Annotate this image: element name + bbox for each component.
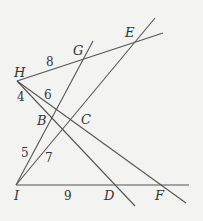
point-label-h: H (13, 65, 26, 80)
segment-label-id: 9 (64, 189, 72, 203)
segment-label-hi: 4 (17, 90, 25, 104)
line-h-d (17, 81, 135, 206)
segment-label-hb: 6 (44, 88, 52, 102)
geometry-diagram: H G E B C I D F 8 6 4 5 7 9 (0, 0, 203, 221)
point-label-f: F (154, 188, 165, 203)
segment-label-hg: 8 (46, 55, 54, 69)
segment-label-ib: 5 (21, 146, 29, 160)
point-label-e: E (124, 25, 135, 40)
segment-label-ic: 7 (45, 151, 53, 165)
point-label-i: I (13, 188, 20, 203)
point-label-c: C (81, 112, 91, 127)
line-h-e (17, 33, 163, 81)
point-label-g: G (73, 43, 83, 58)
diagram-svg: H G E B C I D F 8 6 4 5 7 9 (0, 0, 203, 221)
point-label-d: D (103, 188, 115, 203)
point-label-b: B (36, 113, 47, 128)
